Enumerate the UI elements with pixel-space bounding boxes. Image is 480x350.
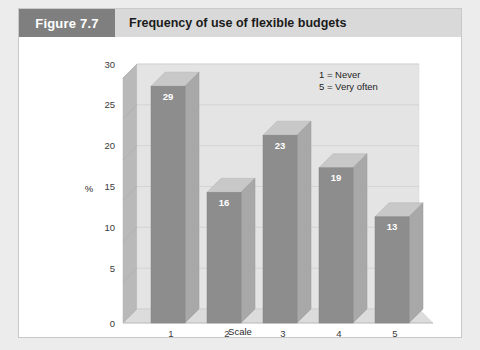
bar-5-side [409, 203, 423, 323]
bar-1-front [151, 86, 185, 323]
bar-column-2: 16 [207, 178, 255, 323]
bar-3-front [263, 135, 297, 323]
bar-2-side [241, 178, 255, 323]
bar-column-3: 23 [263, 121, 311, 323]
bar-1-value: 29 [163, 91, 174, 102]
chart-plot-area: 30 25 20 15 10 5 0 % 29 [19, 37, 461, 337]
y-tick-10: 10 [104, 222, 115, 233]
bar-chart-svg: 30 25 20 15 10 5 0 % 29 [19, 37, 461, 337]
figure-title: Frequency of use of flexible budgets [115, 9, 461, 37]
bar-5-value: 13 [387, 221, 398, 232]
bar-4-side [353, 154, 367, 323]
bar-2-front [207, 192, 241, 323]
bar-1-side [185, 72, 199, 323]
y-tick-30: 30 [104, 59, 115, 70]
legend-line-1: 1 = Never [319, 69, 360, 80]
y-tick-15: 15 [104, 181, 115, 192]
bar-5-front [375, 217, 409, 323]
bar-4-value: 19 [331, 172, 342, 183]
y-axis-tick-labels: 30 25 20 15 10 5 0 [104, 59, 115, 329]
bar-2-value: 16 [219, 197, 230, 208]
x-axis-title-wrap: Scale [19, 321, 461, 339]
figure-header: Figure 7.7 Frequency of use of flexible … [19, 9, 461, 37]
y-tick-25: 25 [104, 99, 115, 110]
bar-3-value: 23 [275, 140, 286, 151]
bar-3-side [297, 121, 311, 323]
figure-number-badge: Figure 7.7 [19, 9, 115, 37]
bar-column-5: 13 [375, 203, 423, 323]
figure-card: Figure 7.7 Frequency of use of flexible … [18, 8, 462, 338]
bar-4-front [319, 168, 353, 323]
bar-column-1: 29 [151, 72, 199, 323]
legend-line-2: 5 = Very often [319, 81, 378, 92]
y-tick-20: 20 [104, 140, 115, 151]
y-axis-title: % [85, 183, 94, 194]
x-axis-title: Scale [228, 326, 252, 337]
y-tick-5: 5 [110, 263, 115, 274]
bar-column-4: 19 [319, 154, 367, 323]
